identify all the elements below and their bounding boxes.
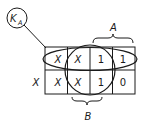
label-main: K bbox=[10, 13, 18, 24]
cell-r1-c0: X bbox=[54, 77, 63, 88]
cell-r1-c3: 0 bbox=[120, 77, 126, 88]
leader-line bbox=[24, 25, 46, 48]
brace-b: B bbox=[72, 97, 102, 122]
cell-r0-c0: X bbox=[54, 54, 63, 65]
brace-a: A bbox=[93, 22, 133, 43]
brace-a-shape bbox=[93, 34, 133, 43]
group-label-ka: K A bbox=[7, 8, 46, 48]
karnaugh-map-diagram: K A A X X 1 1 X X 1 0 X B bbox=[0, 0, 146, 128]
cell-r0-c2: 1 bbox=[98, 54, 104, 65]
outside-row-label: X bbox=[32, 77, 41, 88]
cell-r0-c1: X bbox=[74, 54, 83, 65]
cell-r1-c1: X bbox=[74, 77, 83, 88]
brace-b-label: B bbox=[85, 111, 92, 122]
cell-r1-c2: 1 bbox=[98, 77, 104, 88]
cell-r0-c3: 1 bbox=[120, 54, 126, 65]
brace-a-label: A bbox=[109, 22, 117, 33]
label-subscript: A bbox=[17, 19, 22, 27]
brace-b-shape bbox=[72, 97, 102, 105]
